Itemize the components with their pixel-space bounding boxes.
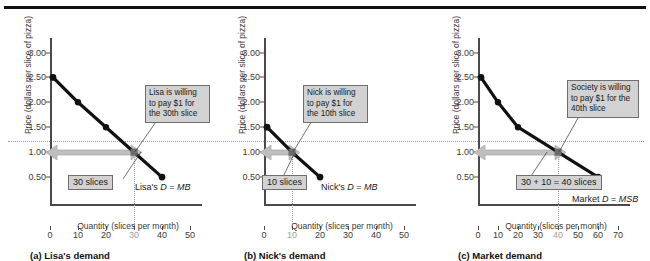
span-label-pill: 30 + 10 = 40 slices: [516, 175, 602, 190]
panel-lisa-demand: Price (dollars per slice of pizza) Quant…: [4, 18, 216, 258]
top-rule-divider: [4, 6, 646, 9]
callout-box: Nick is willing to pay $1 for the 10th s…: [303, 85, 368, 123]
curve-label: Lisa's D = MB: [135, 182, 191, 192]
curve-label: Nick's D = MB: [321, 182, 377, 192]
x-tick-4: 40: [553, 230, 563, 240]
panel-market-demand: Price (dollars per slice of pizza) Quant…: [432, 18, 644, 258]
x-tick-2: 20: [513, 230, 523, 240]
panel-caption: (b) Nick's demand: [244, 250, 325, 261]
callout-line-2: to pay $1 for: [307, 99, 364, 110]
panel-caption: (a) Lisa's demand: [30, 250, 110, 261]
x-tick-3: 30: [129, 230, 139, 240]
callout-line-3: the 30th slice: [149, 109, 206, 120]
x-tick-5: 50: [573, 230, 583, 240]
x-tick-0: 0: [475, 230, 480, 240]
x-axis-line: [264, 204, 416, 206]
x-tick-4: 40: [157, 230, 167, 240]
span-label-pill: 30 slices: [68, 175, 113, 190]
curve-label: Market D = MSB: [572, 194, 638, 204]
x-tick-0: 0: [261, 230, 266, 240]
callout-line-2: to pay $1 for: [149, 99, 206, 110]
x-tick-1: 10: [287, 230, 297, 240]
callout-box: Society is willing to pay $1 for the 40t…: [567, 80, 639, 118]
x-tick-3: 30: [533, 230, 543, 240]
x-axis-line: [50, 204, 202, 206]
callout-line-3: the 10th slice: [307, 109, 364, 120]
x-tick-6: 60: [593, 230, 603, 240]
callout-line-2: to pay $1 for the: [571, 94, 635, 105]
span-label-leader-line: [120, 152, 142, 180]
x-tick-5: 50: [185, 230, 195, 240]
x-tick-2: 20: [315, 230, 325, 240]
x-tick-5: 50: [399, 230, 409, 240]
x-tick-7: 70: [613, 230, 623, 240]
x-tick-2: 20: [101, 230, 111, 240]
panel-nick-demand: Price (dollars per slice of pizza) Quant…: [218, 18, 430, 258]
x-tick-0: 0: [47, 230, 52, 240]
x-tick-3: 30: [343, 230, 353, 240]
x-tick-4: 40: [371, 230, 381, 240]
callout-line-3: 40th slice: [571, 104, 635, 115]
span-label-pill: 10 slices: [262, 175, 307, 190]
x-tick-1: 10: [73, 230, 83, 240]
callout-box: Lisa is willing to pay $1 for the 30th s…: [145, 85, 210, 123]
x-axis-line: [478, 204, 630, 206]
callout-line-1: Society is willing: [571, 83, 635, 94]
panel-caption: (c) Market demand: [458, 250, 542, 261]
callout-line-1: Nick is willing: [307, 88, 364, 99]
callout-line-1: Lisa is willing: [149, 88, 206, 99]
x-tick-1: 10: [493, 230, 503, 240]
